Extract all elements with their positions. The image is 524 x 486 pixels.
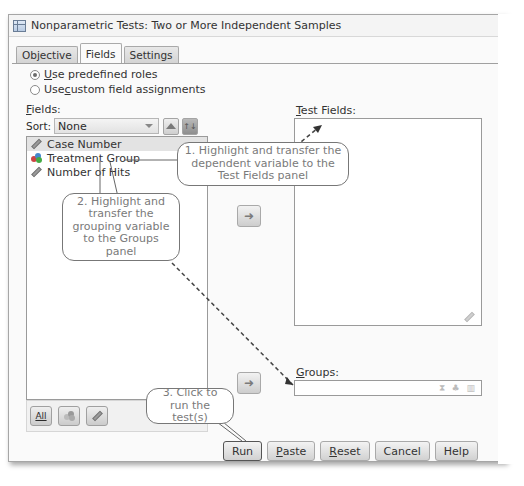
transfer-to-groups-button[interactable]: ➜: [237, 372, 261, 394]
scale-ruler-icon: [31, 167, 42, 178]
scale-ruler-icon: [464, 312, 475, 323]
arrow-right-icon: ➜: [244, 376, 254, 390]
transfer-to-test-fields-button[interactable]: ➜: [237, 205, 261, 227]
callout-step-3: 3. Click to run the test(s): [146, 388, 234, 424]
scale-filter-button[interactable]: [86, 406, 108, 426]
groups-field[interactable]: ⧗ ♣ ▥: [294, 380, 482, 396]
callout-step-1: 1. Highlight and transfer the dependent …: [177, 142, 349, 186]
radio-custom-assignments[interactable]: Use custom field assignments: [30, 83, 206, 96]
nominal-icon: [64, 411, 75, 421]
fields-label: Fields:: [26, 103, 61, 116]
radio-predefined-roles[interactable]: Use predefined roles: [30, 68, 158, 81]
run-button[interactable]: Run: [223, 441, 262, 461]
title-bar: Nonparametric Tests: Two or More Indepen…: [9, 15, 505, 37]
scale-ruler-icon: [92, 411, 103, 422]
table-icon: [13, 20, 26, 32]
paste-button[interactable]: Paste: [267, 441, 315, 461]
sort-ascending-button[interactable]: [163, 118, 179, 135]
stage: Nonparametric Tests: Two or More Indepen…: [0, 0, 524, 486]
reset-button[interactable]: Reset: [320, 441, 369, 461]
chevron-down-icon: [145, 124, 153, 128]
sort-label: Sort:: [26, 120, 51, 132]
help-button[interactable]: Help: [435, 441, 478, 461]
sort-order-button[interactable]: ↑↓: [182, 118, 198, 135]
radio-button[interactable]: [30, 85, 40, 95]
measurement-level-icons: ⧗ ♣ ▥: [439, 383, 477, 394]
dialog-button-bar: Run Paste Reset Cancel Help: [223, 441, 483, 461]
tab-fields[interactable]: Fields: [80, 43, 122, 63]
callout-step-2: 2. Highlight and transfer the grouping v…: [62, 193, 180, 261]
sort-icon: ↑↓: [183, 122, 196, 131]
sort-row: Sort: None ↑↓: [26, 117, 198, 135]
scale-ruler-icon: [31, 139, 42, 150]
tab-bar: Objective Fields Settings: [16, 43, 181, 63]
nominal-icon: [31, 153, 42, 163]
test-fields-label: Test Fields:: [296, 104, 356, 117]
torn-edge: [498, 14, 524, 464]
groups-label: Groups:: [296, 366, 339, 379]
tab-objective[interactable]: Objective: [16, 46, 78, 63]
tab-settings[interactable]: Settings: [124, 46, 179, 63]
radio-button-checked[interactable]: [30, 70, 40, 80]
arrow-right-icon: ➜: [244, 209, 254, 223]
arrow-up-icon: [166, 123, 176, 129]
cancel-button[interactable]: Cancel: [375, 441, 430, 461]
all-button[interactable]: All: [30, 406, 52, 426]
window-title: Nonparametric Tests: Two or More Indepen…: [31, 19, 341, 32]
sort-dropdown[interactable]: None: [54, 118, 159, 134]
nominal-filter-button[interactable]: [58, 406, 80, 426]
tab-divider: [12, 63, 502, 64]
